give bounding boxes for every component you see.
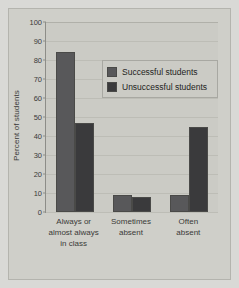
bar-group-2 [103,22,160,212]
x-axis-labels: Always oralmost alwaysin classSometimesa… [45,216,218,266]
y-tick-label-40: 40 [34,132,42,141]
y-tick-label-90: 90 [34,37,42,46]
y-tick-label-70: 70 [34,75,42,84]
legend-item-successful: Successful students [107,64,214,79]
bar-group-1 [46,22,103,212]
legend-label-successful: Successful students [122,67,198,77]
bar-3-series-1 [170,195,189,212]
y-tick-label-20: 20 [34,170,42,179]
bar-series-container [46,22,218,212]
plot-area: 0102030405060708090100 [45,22,218,213]
y-tick-label-10: 10 [34,189,42,198]
gridline-0 [46,212,218,213]
y-tick-label-80: 80 [34,56,42,65]
y-tick-label-50: 50 [34,113,42,122]
legend-swatch-icon-successful [107,67,117,77]
bar-2-series-2 [132,197,151,212]
bar-1-series-1 [56,52,75,212]
chart-figure: Percent of students 01020304050607080901… [0,0,239,288]
bar-3-series-2 [189,127,208,213]
legend-swatch-icon-unsuccessful [107,82,117,92]
bar-group-3 [161,22,218,212]
x-axis-label-3: Oftenabsent [154,216,223,238]
legend-label-unsuccessful: Unsuccessful students [122,82,207,92]
y-tick-label-30: 30 [34,151,42,160]
y-tick-label-100: 100 [29,18,42,27]
bar-2-series-1 [113,195,132,212]
y-tick-label-60: 60 [34,94,42,103]
legend-item-unsuccessful: Unsuccessful students [107,79,214,94]
bar-1-series-2 [75,123,94,212]
chart-legend: Successful students Unsuccessful student… [102,60,218,98]
